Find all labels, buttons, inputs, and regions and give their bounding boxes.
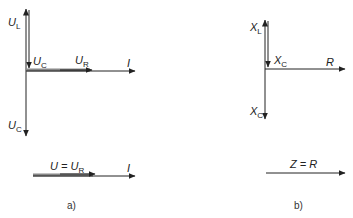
label-uc-top: UC [33, 56, 47, 70]
caption-a: a) [67, 201, 76, 211]
label-xc-top: XC [274, 55, 287, 69]
label-uc-bottom: UC [8, 120, 22, 134]
panel-a-phasors [26, 9, 135, 176]
label-z-equals-r: Z = R [290, 159, 317, 170]
label-i-result: I [127, 163, 130, 174]
panel-b-phasors [265, 20, 345, 173]
label-xl: XL [250, 22, 262, 36]
label-i: I [127, 58, 130, 69]
label-xc-bottom: XC [250, 106, 263, 120]
label-u-equals-ur: U = UR [50, 161, 84, 175]
label-r: R [326, 57, 334, 68]
phasor-diagram-canvas [0, 0, 353, 218]
label-ul: UL [8, 17, 20, 31]
caption-b: b) [294, 201, 303, 211]
label-ur: UR [75, 55, 89, 69]
